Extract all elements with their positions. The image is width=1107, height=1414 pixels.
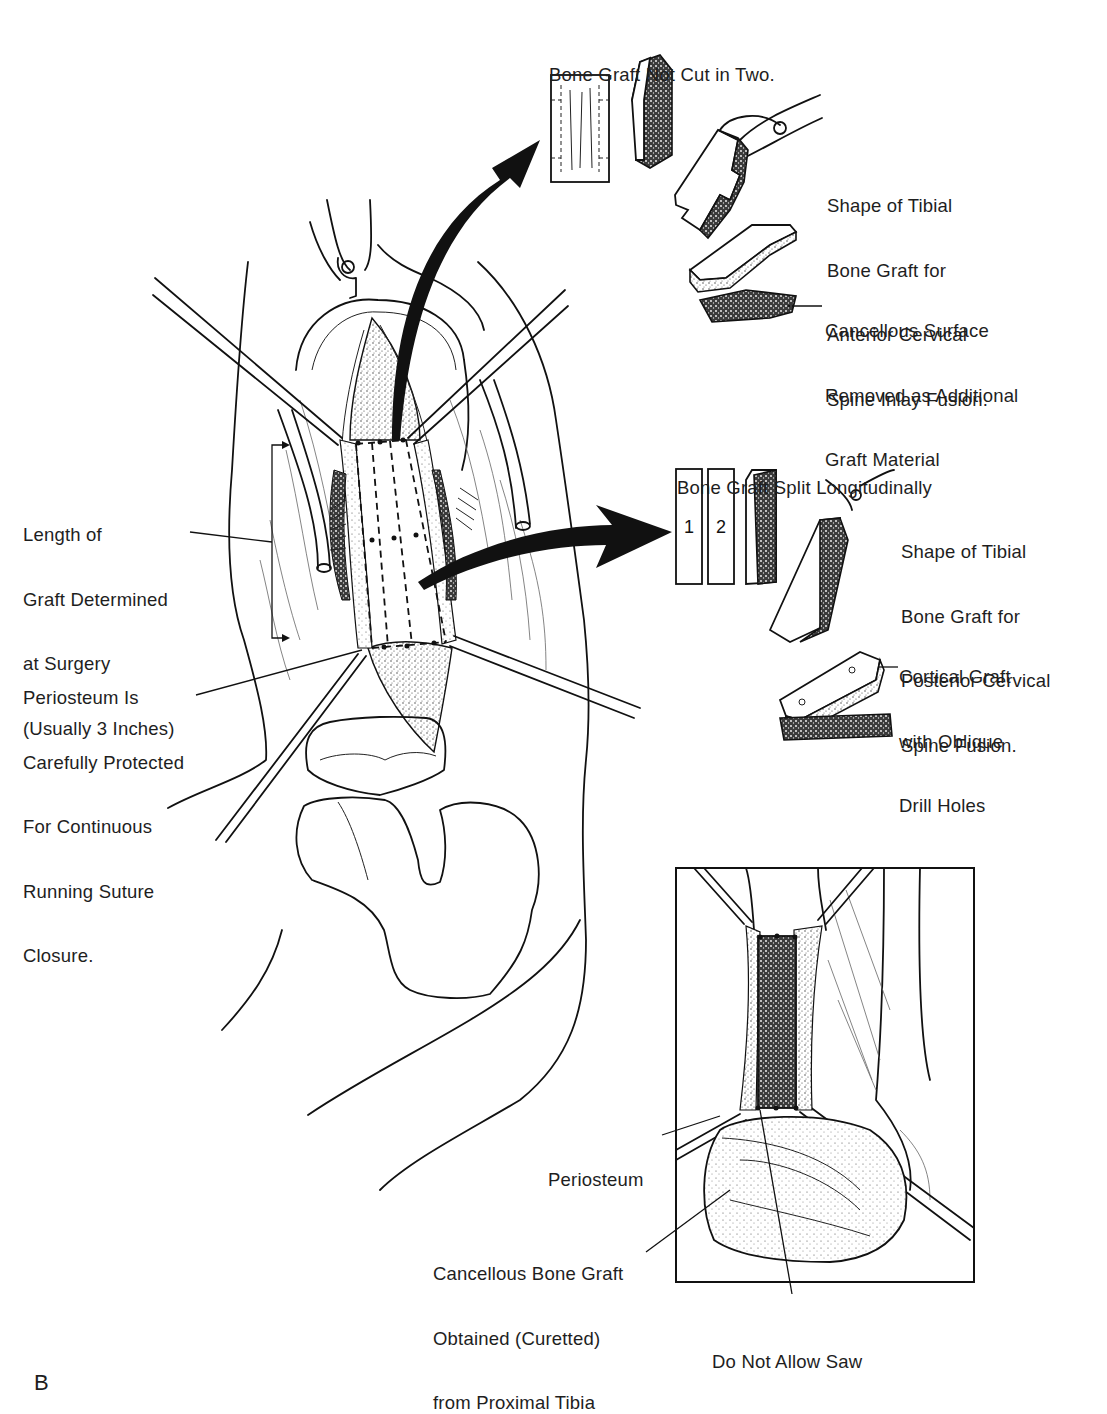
panel-letter: B: [34, 1370, 49, 1396]
label-line: Obtained (Curetted): [433, 1328, 623, 1350]
label-line: Cancellous Bone Graft: [433, 1263, 623, 1285]
label-line: with Oblique: [899, 731, 1011, 753]
label-line: Periosteum: [548, 1169, 644, 1191]
label-line: Cortical Graft: [899, 666, 1011, 688]
label-periosteum: Periosteum: [548, 1126, 644, 1212]
split-piece-2: 2: [716, 517, 726, 537]
label-line: Length of: [23, 524, 175, 546]
label-line: from Proximal Tibia: [433, 1392, 623, 1414]
arrow-to-unsplit-graft: [392, 140, 540, 440]
label-line: Bone Graft Split Longitudinally: [677, 477, 932, 499]
label-graft-not-cut: Bone Graft Not Cut in Two.: [549, 21, 775, 107]
label-periosteum-protected: Periosteum Is Carefully Protected For Co…: [23, 644, 184, 988]
label-line: Graft Determined: [23, 589, 175, 611]
inset-graft-site: [676, 868, 974, 1282]
label-cortical-graft: Cortical Graft with Oblique Drill Holes: [899, 623, 1011, 838]
label-line: For Continuous: [23, 816, 184, 838]
label-line: Drill Holes: [899, 795, 1011, 817]
label-line: Bone Graft Not Cut in Two.: [549, 64, 775, 86]
label-line: Running Suture: [23, 881, 184, 903]
label-line: Carefully Protected: [23, 752, 184, 774]
label-line: Shape of Tibial: [827, 195, 988, 217]
split-piece-1: 1: [684, 517, 694, 537]
label-cancellous-bone-graft: Cancellous Bone Graft Obtained (Curetted…: [433, 1220, 623, 1414]
label-line: Cancellous Surface: [825, 320, 1018, 342]
label-line: Periosteum Is: [23, 687, 184, 709]
label-line: Removed as Additional: [825, 385, 1018, 407]
label-line: Shape of Tibial: [901, 541, 1051, 563]
label-line: Do Not Allow Saw: [712, 1351, 881, 1373]
label-graft-split: Bone Graft Split Longitudinally: [677, 434, 932, 520]
label-line: Closure.: [23, 945, 184, 967]
leg-operative-view: [153, 140, 672, 1190]
label-saw-cuts-warning: Do Not Allow Saw Cuts to Pass Across Dis…: [712, 1308, 881, 1414]
